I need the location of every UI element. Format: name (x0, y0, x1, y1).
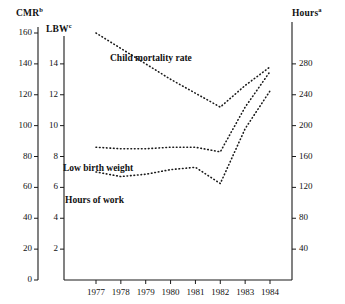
lbw-tick-label-8: 8 (54, 151, 59, 161)
cmr-tick-label-120: 120 (19, 89, 33, 99)
hours-tick-label-40: 40 (299, 243, 308, 253)
axis-lines (38, 22, 292, 280)
cmr-tick-label-160: 160 (19, 27, 33, 37)
hours-tick-label-160: 160 (299, 151, 313, 161)
cmr-tick-label-80: 80 (23, 151, 32, 161)
hours-tick-label-240: 240 (299, 89, 313, 99)
series-line-child-mortality-rate (96, 33, 270, 107)
hours-tick-label-200: 200 (299, 120, 313, 130)
hours-tick-label-120: 120 (299, 181, 313, 191)
cmr-tick-label-20: 20 (23, 243, 32, 253)
lbw-tick-label-6: 6 (54, 181, 59, 191)
cmr-tick-label-40: 40 (23, 212, 32, 222)
tick-marks (34, 33, 296, 284)
lbw-tick-label-12: 12 (49, 89, 58, 99)
cmr-tick-label-100: 100 (19, 120, 33, 130)
x-tick-label-1984: 1984 (254, 287, 286, 297)
lbw-tick-label-10: 10 (49, 120, 58, 130)
hours-tick-label-80: 80 (299, 212, 308, 222)
series-paths (96, 33, 270, 184)
series-line-hours-of-work (96, 91, 270, 184)
hours-tick-label-280: 280 (299, 58, 313, 68)
plot-area (0, 0, 345, 304)
lbw-tick-label-4: 4 (54, 212, 59, 222)
cmr-tick-label-0: 0 (28, 274, 33, 284)
chart-container: CMRb LBWc Hoursa Child mortality rate Lo… (0, 0, 345, 304)
series-line-low-birth-weight (96, 72, 270, 152)
lbw-tick-label-2: 2 (54, 243, 59, 253)
cmr-tick-label-60: 60 (23, 181, 32, 191)
lbw-tick-label-14: 14 (49, 58, 58, 68)
cmr-tick-label-140: 140 (19, 58, 33, 68)
